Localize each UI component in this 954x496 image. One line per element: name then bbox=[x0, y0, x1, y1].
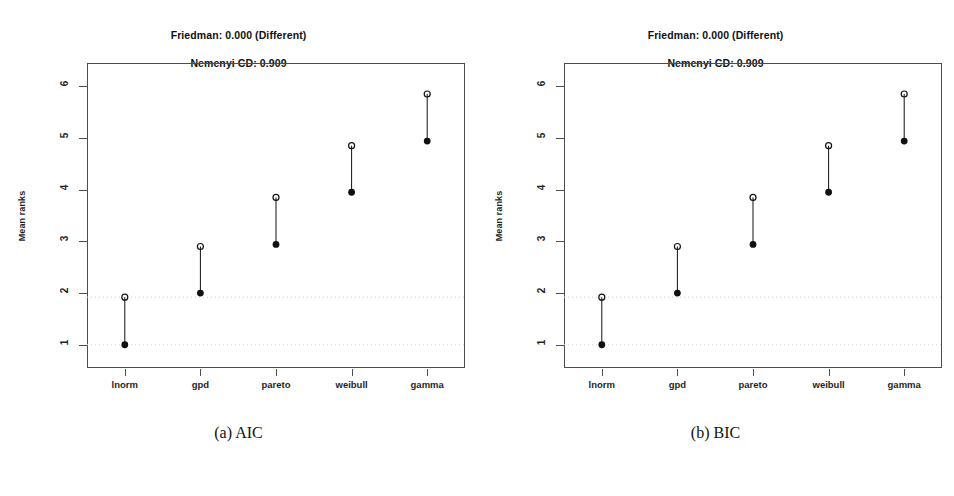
y-tick-label: 3 bbox=[52, 233, 78, 244]
y-tick-mark bbox=[79, 138, 87, 139]
x-tick-label: gpd bbox=[669, 379, 686, 390]
x-tick-mark bbox=[753, 369, 754, 376]
y-tick-label: 5 bbox=[52, 130, 78, 141]
y-tick-mark bbox=[556, 138, 564, 139]
x-tick-mark bbox=[904, 369, 905, 376]
mean-rank-marker bbox=[825, 189, 832, 196]
caption-bic: (b) BIC bbox=[477, 424, 954, 442]
y-tick-label: 3 bbox=[529, 233, 555, 244]
panel-bic: Friedman: 0.000 (Different) Nemenyi CD: … bbox=[477, 0, 954, 460]
y-tick-label: 6 bbox=[529, 78, 555, 89]
x-tick-mark bbox=[829, 369, 830, 376]
panel-bic-plot-area bbox=[564, 63, 942, 368]
y-tick-mark bbox=[79, 345, 87, 346]
mean-rank-marker bbox=[674, 290, 681, 297]
x-tick-mark bbox=[602, 369, 603, 376]
panel-aic-x-tick-labels: lnormgpdparetoweibullgamma bbox=[87, 369, 465, 395]
y-tick-label: 6 bbox=[52, 78, 78, 89]
y-tick-mark bbox=[556, 241, 564, 242]
caption-aic: (a) AIC bbox=[0, 424, 477, 442]
panel-aic-y-axis-label: Mean ranks bbox=[14, 63, 30, 368]
y-tick-label: 5 bbox=[529, 130, 555, 141]
panel-bic-x-tick-labels: lnormgpdparetoweibullgamma bbox=[564, 369, 942, 395]
x-tick-label: gamma bbox=[411, 379, 444, 390]
x-tick-label: pareto bbox=[261, 379, 290, 390]
y-tick-mark bbox=[79, 190, 87, 191]
y-tick-label: 1 bbox=[529, 337, 555, 348]
panel-aic-y-tick-labels: 123456 bbox=[52, 63, 78, 368]
panel-aic-plot-area bbox=[87, 63, 465, 368]
panel-bic-title-line1: Friedman: 0.000 (Different) bbox=[477, 28, 954, 42]
x-tick-mark bbox=[125, 369, 126, 376]
y-tick-mark bbox=[556, 86, 564, 87]
mean-rank-marker bbox=[197, 290, 204, 297]
y-tick-mark bbox=[556, 293, 564, 294]
x-tick-mark bbox=[352, 369, 353, 376]
mean-rank-marker bbox=[598, 341, 605, 348]
panel-aic-data-layer bbox=[87, 63, 465, 368]
y-tick-label: 2 bbox=[529, 285, 555, 296]
x-tick-label: gamma bbox=[888, 379, 921, 390]
y-tick-label: 2 bbox=[52, 285, 78, 296]
x-tick-mark bbox=[276, 369, 277, 376]
mean-rank-marker bbox=[750, 241, 757, 248]
x-tick-label: pareto bbox=[738, 379, 767, 390]
figure-two-panel: Friedman: 0.000 (Different) Nemenyi CD: … bbox=[0, 0, 954, 496]
mean-rank-marker bbox=[121, 341, 128, 348]
x-tick-mark bbox=[200, 369, 201, 376]
y-tick-mark bbox=[556, 345, 564, 346]
mean-rank-marker bbox=[424, 138, 431, 145]
y-tick-mark bbox=[79, 86, 87, 87]
y-tick-mark bbox=[556, 190, 564, 191]
mean-rank-marker bbox=[273, 241, 280, 248]
panel-bic-y-tick-labels: 123456 bbox=[529, 63, 555, 368]
x-tick-label: lnorm bbox=[112, 379, 138, 390]
y-tick-label: 1 bbox=[52, 337, 78, 348]
panel-aic: Friedman: 0.000 (Different) Nemenyi CD: … bbox=[0, 0, 477, 460]
x-tick-label: weibull bbox=[335, 379, 367, 390]
panel-bic-y-axis-label: Mean ranks bbox=[491, 63, 507, 368]
y-tick-label: 4 bbox=[529, 182, 555, 193]
x-tick-label: gpd bbox=[192, 379, 209, 390]
mean-rank-marker bbox=[348, 189, 355, 196]
x-tick-label: lnorm bbox=[589, 379, 615, 390]
x-tick-label: weibull bbox=[812, 379, 844, 390]
panel-aic-title-line1: Friedman: 0.000 (Different) bbox=[0, 28, 477, 42]
y-tick-mark bbox=[79, 293, 87, 294]
y-tick-mark bbox=[79, 241, 87, 242]
x-tick-mark bbox=[677, 369, 678, 376]
panel-bic-data-layer bbox=[564, 63, 942, 368]
mean-rank-marker bbox=[901, 138, 908, 145]
y-tick-label: 4 bbox=[52, 182, 78, 193]
x-tick-mark bbox=[427, 369, 428, 376]
